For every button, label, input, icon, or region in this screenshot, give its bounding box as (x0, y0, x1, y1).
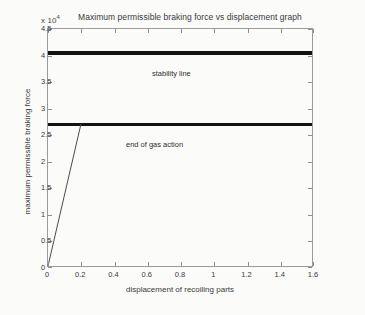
x-axis-tick (181, 29, 182, 33)
y-axis-tick (308, 188, 312, 189)
x-axis-tick-label: 0.2 (75, 270, 85, 279)
y-axis-tick-label: 0 (41, 263, 45, 272)
y-axis-tick (308, 109, 312, 110)
y-axis-tick (308, 82, 312, 83)
x-axis-tick-label: 1.4 (275, 270, 285, 279)
x-axis-tick (281, 29, 282, 33)
chart-figure: x 104 Maximum permissible braking force … (0, 0, 365, 315)
y-axis-tick (308, 162, 312, 163)
y-axis-tick-label: 3.5 (41, 77, 51, 86)
x-axis-tick (81, 29, 82, 33)
plot-area: stability line end of gas action (47, 28, 313, 267)
y-axis-tick-label: 1 (41, 209, 45, 218)
annotation-stability-line: stability line (152, 69, 191, 78)
y-axis-tick-label: 1.5 (41, 183, 51, 192)
x-axis-tick (313, 29, 314, 33)
x-axis-tick-label: 0.4 (108, 270, 118, 279)
y-axis-tick (308, 56, 312, 57)
x-axis-tick (313, 262, 314, 266)
y-axis-tick (48, 267, 52, 268)
x-axis-tick-label: 1 (211, 270, 215, 279)
y-axis-tick (308, 29, 312, 30)
x-axis-tick-label: 1.6 (308, 270, 318, 279)
x-axis-tick (148, 262, 149, 266)
x-axis-tick (181, 262, 182, 266)
y-axis-tick (308, 215, 312, 216)
chart-title: Maximum permissible braking force vs dis… (78, 12, 302, 22)
y-axis-tick-label: 0.5 (41, 236, 51, 245)
y-axis-tick-label: 2.5 (41, 130, 51, 139)
multiplier-exponent: 4 (57, 14, 60, 20)
y-axis-tick (48, 215, 52, 216)
x-axis-tick-label: 0.6 (142, 270, 152, 279)
y-axis-tick (48, 109, 52, 110)
y-axis-tick (308, 241, 312, 242)
y-axis-title: maximum permissible braking force (23, 37, 32, 267)
x-axis-tick (248, 262, 249, 266)
x-axis-tick (115, 29, 116, 33)
x-axis-tick (214, 29, 215, 33)
y-axis-tick (308, 135, 312, 136)
x-axis-tick (148, 29, 149, 33)
y-axis-tick-label: 4.5 (41, 24, 51, 33)
y-axis-tick-label: 4 (41, 50, 45, 59)
y-axis-tick (48, 56, 52, 57)
y-axis-tick-label: 2 (41, 156, 45, 165)
x-axis-tick (81, 262, 82, 266)
plot-inner: stability line end of gas action (48, 29, 312, 266)
y-axis-tick (48, 162, 52, 163)
x-axis-tick (48, 262, 49, 266)
x-axis-tick (115, 262, 116, 266)
x-axis-tick (248, 29, 249, 33)
y-axis-tick (308, 267, 312, 268)
annotation-end-of-gas-action: end of gas action (126, 140, 183, 149)
x-axis-tick-label: 0.8 (175, 270, 185, 279)
x-axis-tick (281, 262, 282, 266)
y-axis-tick-label: 3 (41, 103, 45, 112)
x-axis-tick-label: 1.2 (241, 270, 251, 279)
x-axis-title: displacement of recoiling parts (47, 285, 313, 294)
x-axis-tick (214, 262, 215, 266)
x-axis-tick-label: 0 (45, 270, 49, 279)
